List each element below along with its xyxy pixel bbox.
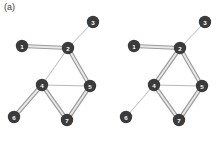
- edge-2-5-core: [180, 48, 202, 86]
- edge-4-5: [154, 85, 202, 86]
- left-graph-edges: [14, 22, 93, 120]
- edge-4-6-core: [14, 85, 42, 117]
- edge-2-5-core: [68, 48, 90, 86]
- node-1-label: 1: [20, 43, 24, 50]
- node-6-label: 6: [124, 114, 128, 121]
- node-5-label: 5: [200, 83, 204, 90]
- figure-root: (a) 12345671234567: [0, 0, 224, 142]
- node-2-label: 2: [66, 45, 70, 52]
- node-7-label: 7: [177, 117, 181, 124]
- edge-4-7-core: [42, 85, 67, 120]
- node-7-label: 7: [65, 117, 69, 124]
- edge-4-6: [126, 85, 154, 117]
- edge-2-4: [42, 48, 68, 85]
- edge-2-4-core: [154, 48, 180, 85]
- node-6-label: 6: [12, 114, 16, 121]
- node-1-label: 1: [132, 43, 136, 50]
- graph-canvas: 12345671234567: [0, 0, 224, 142]
- node-4-label: 4: [152, 82, 156, 89]
- node-3-label: 3: [203, 19, 207, 26]
- right-graph-edges: [126, 22, 205, 120]
- node-3-label: 3: [91, 19, 95, 26]
- node-2-label: 2: [178, 45, 182, 52]
- node-4-label: 4: [40, 82, 44, 89]
- edge-4-5: [42, 85, 90, 86]
- edge-4-7-core: [154, 85, 179, 120]
- node-5-label: 5: [88, 83, 92, 90]
